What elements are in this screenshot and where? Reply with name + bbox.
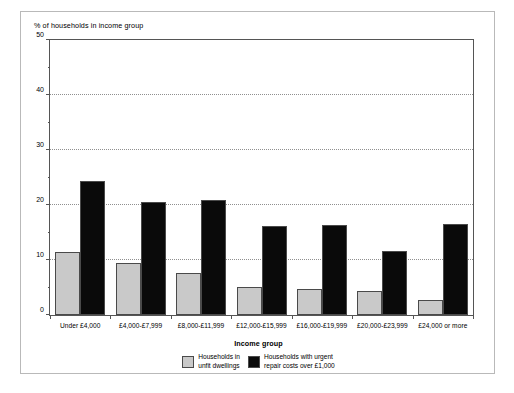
x-tick-7 [473, 315, 474, 319]
legend-entry-repair: Households with urgent repair costs over… [248, 353, 335, 371]
legend-label-repair: Households with urgent repair costs over… [264, 353, 335, 371]
x-tick-6 [413, 315, 414, 319]
y-tick-10 [46, 259, 50, 260]
chart-legend: Households in unfit dwellingsHouseholds … [21, 353, 496, 371]
y-tick-label-10: 10 [36, 250, 44, 257]
x-tick-5 [352, 315, 353, 319]
bar-repair-4 [322, 225, 347, 315]
y-tick-label-20: 20 [36, 195, 44, 202]
x-tick-label-1: £4,000-£7,999 [119, 322, 162, 329]
bar-repair-5 [382, 251, 407, 315]
bar-repair-6 [443, 224, 468, 315]
legend-entry-unfit: Households in unfit dwellings [182, 353, 240, 371]
y-tick-minor-5 [48, 287, 51, 288]
y-tick-minor-35 [48, 122, 51, 123]
x-tick-4 [292, 315, 293, 319]
y-tick-50 [46, 39, 50, 40]
y-tick-40 [46, 94, 50, 95]
bar-unfit-6 [418, 300, 443, 315]
bar-unfit-4 [297, 289, 322, 315]
y-tick-label-0: 0 [40, 305, 44, 312]
bar-unfit-1 [116, 263, 141, 315]
y-tick-label-40: 40 [36, 85, 44, 92]
y-tick-minor-25 [48, 177, 51, 178]
x-tick-label-3: £12,000-£15,999 [236, 322, 287, 329]
bar-unfit-3 [237, 287, 262, 315]
bar-unfit-2 [176, 273, 201, 315]
x-tick-label-5: £20,000-£23,999 [357, 322, 408, 329]
x-axis-label: Income group [21, 339, 496, 348]
x-tick-label-4: £16,000-£19,999 [297, 322, 348, 329]
x-tick-label-0: Under £4,000 [60, 322, 101, 329]
y-axis-label: % of households in income group [34, 21, 143, 30]
bar-unfit-5 [357, 291, 382, 315]
bar-repair-3 [262, 226, 287, 315]
y-tick-30 [46, 149, 50, 150]
plot-area: 01020304050Under £4,000£4,000-£7,999£8,0… [49, 39, 474, 316]
gridline-40 [50, 94, 473, 95]
y-tick-label-30: 30 [36, 140, 44, 147]
legend-swatch-repair [248, 356, 260, 368]
y-tick-minor-45 [48, 67, 51, 68]
y-tick-20 [46, 204, 50, 205]
gridline-20 [50, 204, 473, 205]
legend-label-unfit: Households in unfit dwellings [198, 353, 240, 371]
x-tick-label-2: £8,000-£11,999 [178, 322, 224, 329]
x-tick-2 [171, 315, 172, 319]
bar-unfit-0 [55, 252, 80, 315]
bar-repair-0 [80, 181, 105, 315]
chart-figure: % of households in income group 01020304… [20, 11, 495, 374]
x-tick-3 [231, 315, 232, 319]
legend-swatch-unfit [182, 356, 194, 368]
bar-repair-2 [201, 200, 226, 316]
x-tick-1 [110, 315, 111, 319]
bar-repair-1 [141, 202, 166, 315]
y-tick-minor-15 [48, 232, 51, 233]
x-tick-0 [50, 315, 51, 319]
x-tick-label-6: £24,000 or more [418, 322, 467, 329]
y-tick-label-50: 50 [36, 30, 44, 37]
gridline-30 [50, 149, 473, 150]
